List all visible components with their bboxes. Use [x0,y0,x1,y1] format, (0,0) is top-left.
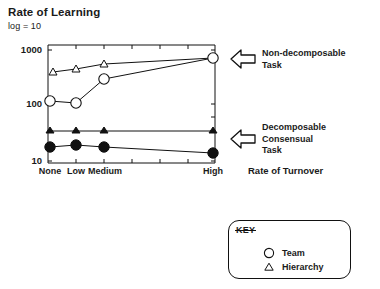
x-axis-title: Rate of Turnover [248,165,323,176]
top-axis-ticks [76,45,188,49]
series-decomposable-hierarchy [46,127,217,133]
legend-item-team: Team [282,248,305,258]
bottom-axis-ticks [76,159,188,163]
legend-item-hierarchy: Hierarchy [282,262,324,272]
y-tick-label-1000: 1000 [8,44,42,55]
series-nondecomposable-team [45,53,218,108]
legend-marker-open-triangle-icon [262,260,276,274]
series-nondecomposable-hierarchy [49,54,217,75]
legend-title-text: KEY [236,225,255,235]
chart-figure: Rate of Learning log = 10 [0,0,380,289]
y-tick-label-100: 100 [8,98,42,109]
y-tick-label-10: 10 [8,155,42,166]
legend-marker-open-circle-icon [262,246,276,260]
right-axis-ticks [211,50,215,161]
annotation-decomposable-consensual-task: Decomposable Consensual Task [262,122,326,157]
series-decomposable-team [45,140,218,158]
legend-title: KEY [236,225,255,235]
arrow-left-decomposable-icon [231,130,255,148]
annotation-non-decomposable-task: Non-decomposable Task [262,48,346,71]
x-tick-label-medium: Medium [80,166,130,176]
arrow-left-non-decomposable-icon [231,50,255,68]
x-tick-label-high: High [192,166,234,176]
